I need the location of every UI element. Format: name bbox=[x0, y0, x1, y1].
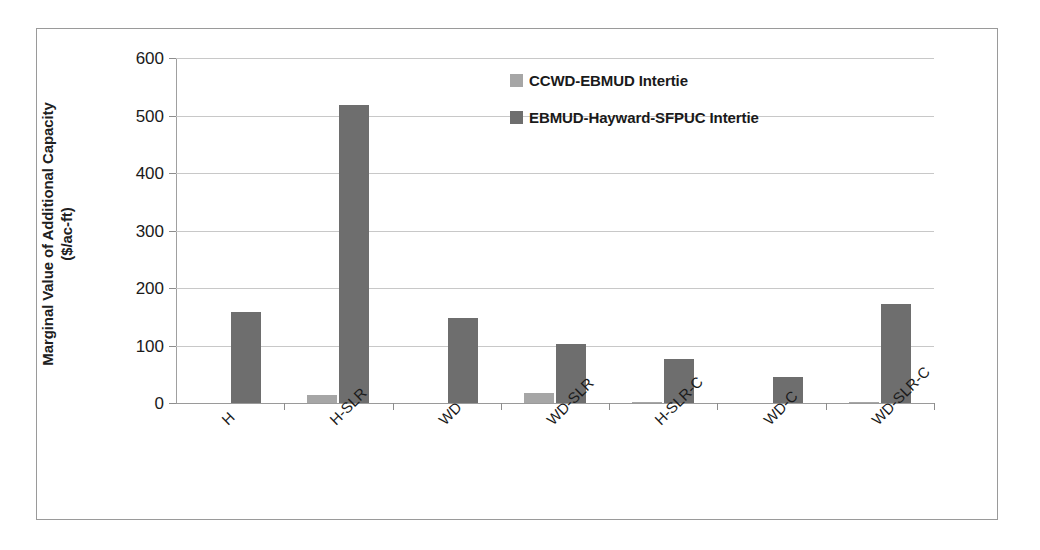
y-tick-mark-0 bbox=[169, 403, 176, 404]
legend-label: EBMUD-Hayward-SFPUC Intertie bbox=[529, 110, 759, 125]
legend-color-swatch bbox=[510, 74, 523, 87]
x-tick-mark bbox=[934, 403, 935, 410]
chart-figure: Marginal Value of Additional Capacity ($… bbox=[0, 0, 1040, 550]
y-tick-mark-100 bbox=[169, 346, 176, 347]
bar[interactable] bbox=[307, 395, 337, 403]
bar[interactable] bbox=[339, 105, 369, 403]
legend-label: CCWD-EBMUD Intertie bbox=[529, 73, 688, 88]
legend-entry[interactable]: CCWD-EBMUD Intertie bbox=[510, 72, 840, 88]
y-tick-mark-400 bbox=[169, 173, 176, 174]
x-tick-mark bbox=[393, 403, 394, 410]
legend-entry[interactable]: EBMUD-Hayward-SFPUC Intertie bbox=[510, 109, 840, 125]
bar-group bbox=[393, 58, 501, 403]
y-tick-mark-200 bbox=[169, 288, 176, 289]
y-tick-mark-600 bbox=[169, 58, 176, 59]
bar[interactable] bbox=[849, 402, 879, 403]
x-tick-mark bbox=[826, 403, 827, 410]
y-tick-mark-500 bbox=[169, 116, 176, 117]
y-tick-label-400: 400 bbox=[104, 165, 164, 182]
y-tick-label-300: 300 bbox=[104, 222, 164, 239]
y-tick-label-100: 100 bbox=[104, 337, 164, 354]
y-tick-label-600: 600 bbox=[104, 50, 164, 67]
x-tick-mark bbox=[717, 403, 718, 410]
y-tick-mark-300 bbox=[169, 231, 176, 232]
x-tick-mark bbox=[501, 403, 502, 410]
bar[interactable] bbox=[231, 312, 261, 403]
bar[interactable] bbox=[448, 318, 478, 403]
bar-group bbox=[176, 58, 284, 403]
y-tick-label-200: 200 bbox=[104, 280, 164, 297]
x-tick-mark bbox=[284, 403, 285, 410]
y-axis-title: Marginal Value of Additional Capacity ($… bbox=[38, 69, 76, 399]
bar[interactable] bbox=[524, 393, 554, 403]
x-tick-mark bbox=[609, 403, 610, 410]
y-tick-label-500: 500 bbox=[104, 107, 164, 124]
y-tick-label-0: 0 bbox=[104, 395, 164, 412]
legend-color-swatch bbox=[510, 111, 523, 124]
bar-group bbox=[284, 58, 392, 403]
bar-group bbox=[826, 58, 934, 403]
y-axis-tick-labels: 0100200300400500600 bbox=[104, 58, 164, 403]
chart-legend: CCWD-EBMUD IntertieEBMUD-Hayward-SFPUC I… bbox=[510, 72, 840, 146]
bar[interactable] bbox=[632, 402, 662, 403]
